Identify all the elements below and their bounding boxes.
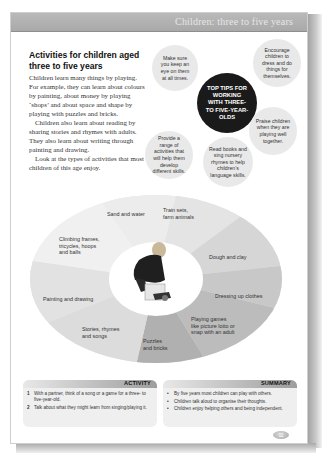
activity-item: 2Talk about what they might learn from s… xyxy=(27,405,153,411)
activity-item: 1With a partner, think of a song or a ga… xyxy=(27,391,153,403)
bullet-icon: • xyxy=(167,391,169,397)
page-number: 11 xyxy=(273,431,289,439)
tip-bubble: Make sure you keep an eye on them at all… xyxy=(152,45,198,91)
activity-box: ACTIVITY 1With a partner, think of a son… xyxy=(23,380,157,427)
wheel-label: Sand and water xyxy=(107,211,145,218)
wheel-label: Dough and clay xyxy=(209,254,246,261)
bullet-icon: • xyxy=(167,406,169,412)
activity-box-header: ACTIVITY xyxy=(23,380,157,388)
wheel-label: Playing games like picture lotto or snap… xyxy=(191,316,235,336)
paragraph: Children learn many things by playing. F… xyxy=(29,73,147,118)
wheel-label: Climbing frames, tricycles, hoops and ba… xyxy=(59,236,103,256)
paragraph: Children also learn about reading by sha… xyxy=(29,118,147,154)
top-tips-title: TOP TIPS FOR WORKING WITH THREE- TO FIVE… xyxy=(197,73,257,133)
bullet-icon: • xyxy=(167,399,169,405)
header-band: Children: three to five years xyxy=(11,13,307,32)
wheel-label: Train sets, farm animals xyxy=(163,207,199,220)
page-shadow-right xyxy=(306,14,322,448)
summary-item: •By five years most children can play wi… xyxy=(167,391,293,397)
tip-bubble: Encourage children to dress and do thing… xyxy=(253,39,301,87)
tip-bubble: Read books and sing nursery rhymes to he… xyxy=(203,137,253,187)
summary-box-header: SUMMARY xyxy=(163,380,297,388)
activity-list: 1With a partner, think of a song or a ga… xyxy=(27,391,153,412)
summary-box-title: SUMMARY xyxy=(261,380,291,386)
wheel-label: Dressing up clothes xyxy=(215,293,262,300)
activity-wheel: Sand and water Train sets, farm animals … xyxy=(29,194,283,364)
book-page: Children: three to five years Activities… xyxy=(10,12,308,444)
child-playing-photo xyxy=(125,240,183,310)
wheel-label: Stories, rhymes and songs xyxy=(82,326,122,339)
tip-bubble: Praise children when they are playing we… xyxy=(249,107,297,155)
activity-box-title: ACTIVITY xyxy=(124,380,151,386)
wheel-label: Painting and drawing xyxy=(43,296,93,303)
summary-list: •By five years most children can play wi… xyxy=(167,391,293,414)
paragraph: Look at the types of activities that mos… xyxy=(29,154,147,172)
section-body: Children learn many things by playing. F… xyxy=(29,73,147,172)
summary-box: SUMMARY •By five years most children can… xyxy=(163,380,297,427)
chapter-title: Children: three to five years xyxy=(175,16,293,27)
wheel-label: Puzzles and bricks xyxy=(143,338,171,351)
tip-bubble: Provide a range of activities that will … xyxy=(145,131,193,179)
summary-item: •Children enjoy helping others and being… xyxy=(167,406,293,412)
section-heading: Activities for children aged three to fi… xyxy=(29,50,149,71)
page-shadow-bottom xyxy=(16,443,316,453)
summary-item: •Children talk aloud to organise their t… xyxy=(167,399,293,405)
